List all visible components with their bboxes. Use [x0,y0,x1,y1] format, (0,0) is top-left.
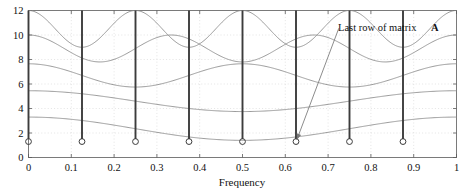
x-tick-label: 0.7 [322,162,335,173]
y-tick-label: 4 [18,103,24,114]
stem-marker [347,139,353,145]
figure-container: 00.10.20.30.40.50.60.70.80.91 024681012 … [0,0,475,191]
stem-marker [186,139,192,145]
stem-marker [133,139,139,145]
annotation-matrix-symbol: A [431,22,439,33]
x-tick-label: 0.2 [108,162,121,173]
x-tick-label: 0 [26,162,31,173]
x-tick-labels: 00.10.20.30.40.50.60.70.80.91 [26,162,459,173]
y-tick-label: 2 [18,128,23,139]
x-tick-label: 0.1 [65,162,78,173]
y-tick-label: 6 [18,79,23,90]
x-tick-label: 0.5 [236,162,249,173]
x-tick-label: 0.9 [407,162,420,173]
stem-marker [240,139,246,145]
stem-marker [400,139,406,145]
chart-canvas: 00.10.20.30.40.50.60.70.80.91 024681012 … [0,0,475,191]
x-tick-label: 1 [454,162,459,173]
x-tick-label: 0.4 [193,162,207,173]
x-axis-title: Frequency [219,176,266,188]
y-tick-label: 8 [18,54,23,65]
x-tick-label: 0.8 [364,162,377,173]
annotation-label: Last row of matrix [338,22,417,33]
y-tick-label: 12 [13,5,24,16]
y-tick-label: 0 [18,152,23,163]
stem-marker [79,139,85,145]
stem-marker [293,139,299,145]
y-tick-label: 10 [13,30,24,41]
x-tick-label: 0.3 [150,162,163,173]
y-tick-labels: 024681012 [13,5,24,163]
x-tick-label: 0.6 [279,162,292,173]
